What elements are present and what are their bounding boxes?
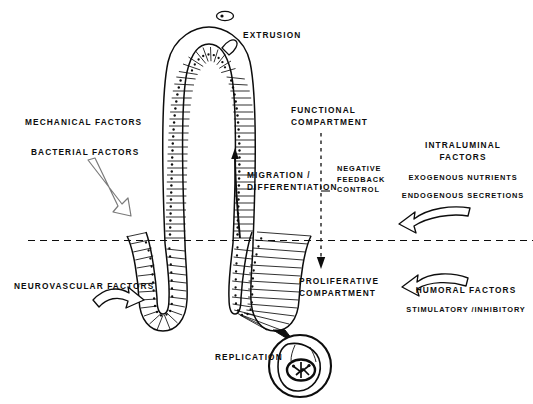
- functional-compartment-line2: COMPARTMENT: [291, 117, 368, 129]
- negative-feedback-line2: FEEDBACK: [337, 175, 385, 186]
- proliferative-compartment-line1: PROLIFERATIVE: [299, 276, 379, 288]
- humoral-factors-label: HUMORAL FACTORS: [416, 285, 517, 297]
- shed-cell-icon: [217, 11, 234, 20]
- proliferative-compartment-label: PROLIFERATIVE COMPARTMENT: [299, 276, 379, 300]
- migration-line1: MIGRATION /: [247, 170, 338, 182]
- replication-label: REPLICATION: [215, 352, 283, 364]
- intraluminal-arrow-icon: [399, 207, 470, 233]
- figure-canvas: EXTRUSION MECHANICAL FACTORS BACTERIAL F…: [0, 0, 533, 404]
- negative-feedback-line1: NEGATIVE: [337, 164, 385, 175]
- proliferative-compartment-line2: COMPARTMENT: [299, 288, 379, 300]
- endogenous-secretions-label: ENDOGENOUS SECRETIONS: [402, 191, 524, 202]
- migration-differentiation-label: MIGRATION / DIFFERENTIATION: [247, 170, 338, 194]
- functional-compartment-label: FUNCTIONAL COMPARTMENT: [291, 105, 368, 129]
- extrusion-label: EXTRUSION: [243, 30, 301, 42]
- diagram-svg: [0, 0, 533, 404]
- stimulatory-inhibitory-label: STIMULATORY /INHIBITORY: [406, 305, 525, 316]
- mechanical-factors-label: MECHANICAL FACTORS: [25, 117, 142, 129]
- intraluminal-line1: INTRALUMINAL: [425, 140, 501, 152]
- neurovascular-factors-label: NEUROVASCULAR FACTORS: [14, 281, 154, 293]
- negative-feedback-line3: CONTROL: [337, 185, 385, 196]
- mechanical-bacterial-arrow-icon: [88, 158, 131, 216]
- villus-icon: [163, 27, 256, 243]
- intraluminal-factors-label: INTRALUMINAL FACTORS: [425, 140, 501, 164]
- intraluminal-line2: FACTORS: [425, 152, 501, 164]
- exogenous-nutrients-label: EXOGENOUS NUTRIENTS: [408, 173, 517, 184]
- negative-feedback-control-label: NEGATIVE FEEDBACK CONTROL: [337, 164, 385, 196]
- bacterial-factors-label: BACTERIAL FACTORS: [31, 147, 139, 159]
- functional-compartment-line1: FUNCTIONAL: [291, 105, 368, 117]
- negative-feedback-arrow-icon: [317, 133, 330, 269]
- migration-line2: DIFFERENTIATION: [247, 182, 338, 194]
